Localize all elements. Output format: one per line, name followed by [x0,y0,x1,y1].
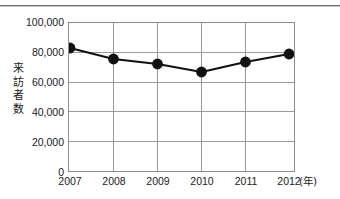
chart-figure: 来 訪 者 数 100,000 80,000 60,000 40,000 20,… [0,0,340,199]
data-point-2012 [284,49,294,60]
x-tick-label-2008: 2008 [102,175,125,187]
y-tick-label-60000: 60,000 [24,77,64,88]
x-tick-label-2012: 2012 [277,175,300,187]
chart-canvas [69,23,294,171]
x-axis-unit-label: (年) [299,175,317,187]
y-tick-label-100000: 100,000 [24,17,64,28]
x-tick-label-2011: 2011 [235,175,258,187]
x-tick-label-2007: 2007 [58,175,81,187]
vertical-gridlines [114,23,246,171]
data-point-2007 [69,43,75,54]
data-point-2011 [240,57,251,68]
y-tick-label-40000: 40,000 [24,107,64,118]
x-tick-label-2009: 2009 [146,175,169,187]
plot-area [68,22,295,172]
data-point-2008 [108,54,119,65]
x-axis-tick-labels: 2007 2008 2009 2010 2011 2012 [68,175,295,193]
data-point-2009 [152,59,163,70]
x-tick-label-2010: 2010 [190,175,213,187]
horizontal-gridlines [69,53,294,142]
y-tick-label-80000: 80,000 [24,47,64,58]
y-tick-label-20000: 20,000 [24,137,64,148]
data-point-2010 [196,67,207,78]
y-axis-tick-labels: 100,000 80,000 60,000 40,000 20,000 0 [24,0,64,199]
series-line-visitors [70,48,289,72]
